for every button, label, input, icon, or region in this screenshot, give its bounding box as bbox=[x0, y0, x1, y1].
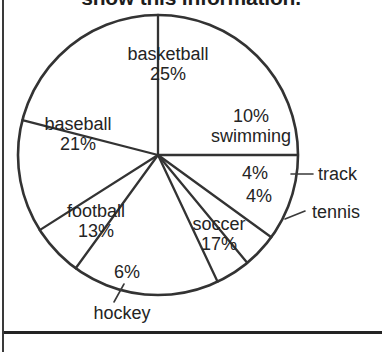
slice-label-swimming-value: 10% bbox=[186, 106, 316, 126]
slice-label-track-name: track bbox=[318, 164, 380, 184]
bottom-border-rule bbox=[4, 331, 382, 334]
slice-label-basketball: basketball 25% bbox=[98, 44, 238, 84]
slice-label-hockey-value: 6% bbox=[104, 262, 150, 282]
slice-label-swimming: 10% swimming bbox=[186, 106, 316, 146]
slice-label-basketball-value: 25% bbox=[98, 64, 238, 84]
slice-label-tennis-name: tennis bbox=[312, 202, 382, 222]
slice-label-tennis-value: 4% bbox=[236, 186, 282, 206]
slice-label-football-value: 13% bbox=[36, 221, 156, 241]
slice-label-football-name: football bbox=[36, 201, 156, 221]
slice-label-soccer-value: 17% bbox=[164, 234, 274, 254]
pie-chart-figure: show this information. basketball 25% ba… bbox=[0, 0, 382, 352]
slice-label-soccer-name: soccer bbox=[164, 214, 274, 234]
slice-label-baseball-name: baseball bbox=[18, 114, 138, 134]
slice-label-basketball-name: basketball bbox=[98, 44, 238, 64]
slice-label-football: football 13% bbox=[36, 201, 156, 241]
slice-label-swimming-name: swimming bbox=[186, 126, 316, 146]
slice-label-hockey-name: hockey bbox=[72, 303, 172, 323]
slice-label-soccer: soccer 17% bbox=[164, 214, 274, 254]
slice-label-track-value: 4% bbox=[232, 163, 278, 183]
leader-line-tennis bbox=[285, 211, 305, 219]
slice-label-baseball: baseball 21% bbox=[18, 114, 138, 154]
slice-label-baseball-value: 21% bbox=[18, 134, 138, 154]
